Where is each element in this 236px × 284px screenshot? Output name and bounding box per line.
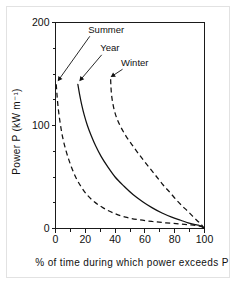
x-tick-label: 100	[196, 233, 214, 245]
annotation-label-year: Year	[100, 42, 119, 53]
annotation-leader-summer	[60, 36, 90, 78]
annotation-label-winter: Winter	[121, 57, 148, 68]
annotations-group: SummerYearWinter	[58, 24, 149, 81]
y-axis-title: Power P (kW m⁻¹)	[11, 88, 22, 175]
x-tick-label: 80	[169, 233, 181, 245]
x-tick-label: 0	[53, 233, 59, 245]
annotation-leader-year	[81, 55, 101, 79]
x-axis-title: % of time during which power exceeds P	[35, 257, 228, 268]
power-exceedance-chart: 0100200020406080100 SummerYearWinter % o…	[0, 0, 236, 284]
annotation-leader-winter	[113, 69, 122, 75]
annotation-arrowhead-summer	[58, 76, 63, 81]
y-tick-label: 0	[44, 222, 50, 234]
x-tick-label: 40	[109, 233, 121, 245]
curve-summer	[56, 84, 204, 228]
x-tick-label: 60	[139, 233, 151, 245]
curves-group	[56, 79, 204, 228]
curve-winter	[111, 79, 204, 228]
figure-container: 0100200020406080100 SummerYearWinter % o…	[0, 0, 236, 284]
y-tick-label: 200	[32, 16, 50, 28]
annotation-arrowhead-winter	[111, 72, 116, 77]
x-tick-label: 20	[79, 233, 91, 245]
y-tick-label: 100	[32, 119, 50, 131]
annotation-label-summer: Summer	[88, 24, 124, 35]
